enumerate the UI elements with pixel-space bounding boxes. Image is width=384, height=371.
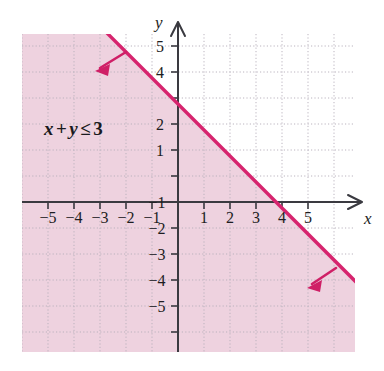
inequality-rhs: 3 [93, 118, 103, 139]
x-axis-label: x [364, 210, 372, 227]
inequality-relation-sign: ≤ [78, 118, 93, 139]
x-tick-label-4: 4 [272, 210, 292, 226]
y-tick-label-1: 1 [150, 143, 170, 159]
x-tick-label--4: −4 [62, 210, 86, 226]
x-tick-label-3: 3 [246, 210, 266, 226]
inequality-graph-figure: −5 −4 −3 −2 −1 1 2 3 4 5 5 4 2 1 −1 −2 −… [0, 0, 384, 371]
y-tick-label--2: −2 [144, 221, 170, 237]
y-tick-label-5: 5 [150, 39, 170, 55]
x-tick-label-1: 1 [194, 210, 214, 226]
x-tick-label--3: −3 [88, 210, 112, 226]
y-tick-label--1: −1 [144, 195, 170, 211]
coordinate-plane [0, 0, 384, 371]
x-tick-label--2: −2 [114, 210, 138, 226]
x-tick-label-5: 5 [298, 210, 318, 226]
y-tick-label--5: −5 [144, 299, 170, 315]
x-tick-label--5: −5 [36, 210, 60, 226]
y-tick-label-4: 4 [150, 65, 170, 81]
inequality-annotation: x+y≤3 [44, 118, 103, 140]
y-axis-label: y [155, 14, 163, 31]
x-tick-label-2: 2 [220, 210, 240, 226]
y-tick-label--4: −4 [144, 273, 170, 289]
y-tick-label-2: 2 [150, 117, 170, 133]
inequality-lhs-x: x [44, 118, 54, 139]
y-tick-label--3: −3 [144, 247, 170, 263]
inequality-lhs-y: y [69, 118, 78, 139]
inequality-plus-sign: + [54, 118, 69, 139]
